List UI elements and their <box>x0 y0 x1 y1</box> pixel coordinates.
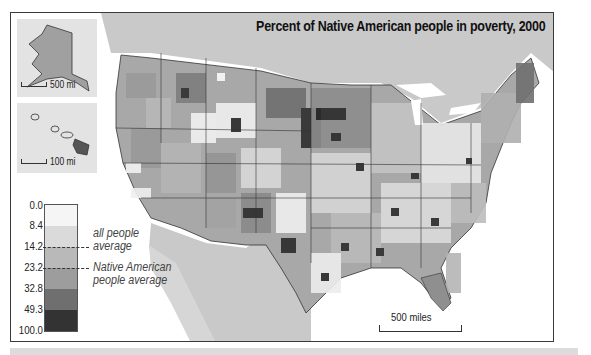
scalebar-label: 500 miles <box>391 311 431 323</box>
alaska-inset: 500 mi <box>16 18 98 98</box>
native-american-label-line2: people average <box>93 275 167 286</box>
hawaii-scale-label: 100 mi <box>50 156 76 167</box>
legend-tick: 0.0 <box>15 199 43 211</box>
legend-tick: 8.4 <box>15 219 43 231</box>
alaska-scalebar <box>21 82 47 87</box>
bottom-strip <box>10 348 578 355</box>
legend: 0.0 8.4 14.2 23.2 32.8 49.3 100.0 all pe… <box>11 199 161 342</box>
legend-swatch-49.3-100 <box>45 310 77 331</box>
legend-tick: 23.2 <box>15 261 43 273</box>
legend-swatch-23.2-32.8 <box>45 268 77 289</box>
scalebar <box>379 325 462 332</box>
legend-tick: 32.8 <box>15 282 43 294</box>
legend-tick: 100.0 <box>15 324 43 336</box>
legend-tick: 14.2 <box>15 240 43 252</box>
hawaii-inset: 100 mi <box>16 102 98 174</box>
all-people-label-line1: all people <box>93 228 139 239</box>
all-people-average-marker <box>43 247 89 248</box>
hawaii-scalebar <box>21 159 47 164</box>
map-frame: Percent of Native American people in pov… <box>10 12 554 342</box>
alaska-scale-label: 500 mi <box>50 79 76 90</box>
native-american-label-line1: Native American <box>93 262 171 273</box>
map-title: Percent of Native American people in pov… <box>256 18 545 34</box>
native-american-average-marker <box>43 268 89 269</box>
legend-swatch-32.8-49.3 <box>45 289 77 310</box>
legend-swatch-0-8.4 <box>45 205 77 226</box>
legend-tick: 49.3 <box>15 303 43 315</box>
legend-swatch-14.2-23.2 <box>45 247 77 268</box>
legend-swatch-8.4-14.2 <box>45 226 77 247</box>
all-people-label-line2: average <box>93 241 132 252</box>
